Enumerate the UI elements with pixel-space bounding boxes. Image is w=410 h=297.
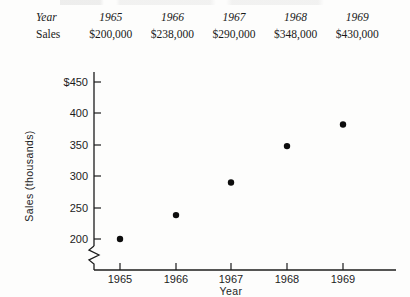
x-tick-label-1968: 1968 (275, 273, 299, 285)
data-point-1968 (284, 143, 290, 149)
sales-scatter-chart: $450 400 350 300 250 200 Sales (thousand… (0, 0, 410, 297)
x-tick-label-1966: 1966 (164, 273, 188, 285)
y-tick-label-200: 200 (70, 233, 88, 245)
y-axis-break-icon (89, 246, 99, 270)
x-tick-label-1965: 1965 (108, 273, 132, 285)
x-tick-label-1969: 1969 (331, 273, 355, 285)
figure-page: Year 1965 1966 1967 1968 1969 Sales $200… (0, 0, 410, 297)
y-tick-label-300: 300 (70, 170, 88, 182)
x-axis-ticks (120, 263, 343, 270)
y-axis-title: Sales (thousands) (23, 130, 35, 221)
data-point-1965 (117, 236, 123, 242)
data-point-1967 (228, 179, 234, 185)
x-axis-tick-labels: 1965 1966 1967 1968 1969 (108, 273, 355, 285)
y-tick-label-350: 350 (70, 139, 88, 151)
x-axis-title: Year (220, 285, 243, 297)
y-axis-tick-labels: $450 400 350 300 250 200 (64, 76, 88, 245)
data-point-1969 (340, 121, 346, 127)
scatter-series (117, 121, 346, 242)
y-tick-label-250: 250 (70, 202, 88, 214)
y-axis-ticks (94, 82, 101, 239)
x-tick-label-1967: 1967 (219, 273, 243, 285)
y-tick-label-450: $450 (64, 76, 88, 88)
data-point-1966 (173, 212, 179, 218)
y-tick-label-400: 400 (70, 107, 88, 119)
